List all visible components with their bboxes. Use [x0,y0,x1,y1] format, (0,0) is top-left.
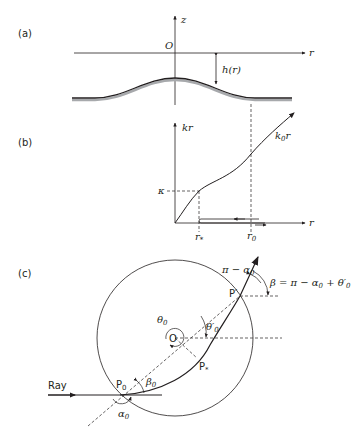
beta-arc [253,271,268,295]
panel-c-label: (c) [18,268,31,279]
pi-minus-alpha-label: π − α0 [221,264,255,277]
r-axis-label: r [309,47,315,58]
k0r-label: k0r [275,130,292,143]
beta-equation-label: β = π − α0 + θ′0 [269,277,351,290]
panel-b: (b) kr r κ k0r r* r0 [18,104,315,244]
diagram-svg: (a) z r O h(r) (b) kr r κ k0r [0,0,355,440]
diameter-p0-pprime [88,296,240,426]
height-label: h(r) [222,64,241,75]
r-star-label: r* [195,231,204,244]
theta0-label: θ0 [157,314,168,327]
r-zero-label: r0 [247,230,257,243]
center-o-label: O [169,333,177,344]
panel-a-label: (a) [18,28,32,39]
pstar-label: P* [199,361,209,374]
r-axis-b-label: r [309,217,315,228]
origin-label: O [165,40,173,51]
theta0-prime-label: θ′0 [206,321,219,334]
radius-o-pstar [175,338,197,358]
ray-label: Ray [48,380,67,391]
alpha0-label: α0 [118,408,130,421]
beta0-label: β0 [145,376,157,389]
kappa-label: κ [157,185,165,196]
radial-path [199,219,265,223]
refracted-ray [120,257,258,395]
pprime-label: P′ [229,288,238,299]
panel-a: (a) z r O h(r) [18,14,315,105]
figure-canvas: (a) z r O h(r) (b) kr r κ k0r [0,0,355,440]
panel-c: (c) Ray O P0 P′ P* θ0 θ′0 β0 α0 [18,257,351,426]
panel-b-label: (b) [18,137,32,148]
kr-axis-label: kr [182,122,194,133]
z-axis-label: z [180,14,187,25]
p0-label: P0 [116,379,127,392]
